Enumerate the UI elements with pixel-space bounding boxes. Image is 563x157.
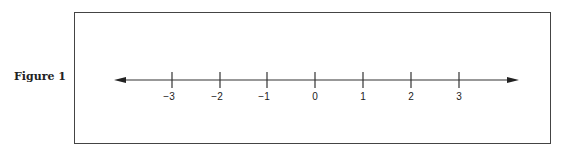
tick-label: 0 [312, 91, 318, 102]
left-arrow-icon [114, 77, 126, 83]
tick-label: 3 [456, 91, 462, 102]
right-arrow-icon [507, 77, 519, 83]
tick-label: −1 [258, 91, 270, 102]
tick-label: 2 [408, 91, 414, 102]
tick-label: −2 [211, 91, 223, 102]
tick-label: 1 [360, 91, 366, 102]
tick-label: −3 [163, 91, 175, 102]
number-line: −3−2−10123 [0, 0, 563, 157]
